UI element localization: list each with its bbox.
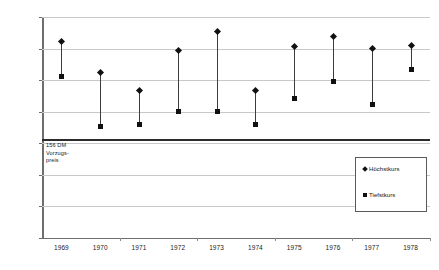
data-point-tiefstkurs	[292, 96, 297, 101]
range-stem	[100, 73, 101, 127]
range-stem	[372, 49, 373, 105]
gridline	[42, 17, 430, 18]
data-point-tiefstkurs	[59, 74, 64, 79]
legend-item-tiefstkurs: Tiefstkurs	[363, 192, 395, 198]
y-axis-tick-mark	[39, 206, 42, 207]
x-axis-tick-mark	[197, 238, 198, 241]
range-stem	[61, 42, 62, 77]
y-axis-tick-mark	[39, 143, 42, 144]
range-stem	[139, 91, 140, 125]
chart-canvas: 050100150200250300350 196919701971197219…	[0, 0, 439, 270]
y-axis-tick-mark	[39, 17, 42, 18]
square-marker-icon	[363, 193, 367, 197]
legend: Höchstkurs Tiefstkurs	[355, 157, 427, 212]
x-axis-tick-label: 1976	[314, 244, 353, 251]
y-axis-tick-mark	[39, 238, 42, 239]
data-point-tiefstkurs	[331, 79, 336, 84]
legend-label-hoechstkurs: Höchstkurs	[369, 166, 400, 172]
x-axis-tick-label: 1978	[391, 244, 430, 251]
data-point-tiefstkurs	[98, 124, 103, 129]
x-axis-tick-label: 1969	[42, 244, 81, 251]
x-axis-tick-mark	[275, 238, 276, 241]
y-axis-tick-mark	[39, 49, 42, 50]
data-point-tiefstkurs	[370, 102, 375, 107]
range-stem	[294, 47, 295, 99]
legend-item-hoechstkurs: Höchstkurs	[363, 166, 400, 172]
data-point-tiefstkurs	[137, 122, 142, 127]
range-stem	[217, 32, 218, 112]
y-axis-tick-mark	[39, 80, 42, 81]
legend-label-tiefstkurs: Tiefstkurs	[369, 192, 395, 198]
x-axis-tick-label: 1974	[236, 244, 275, 251]
x-axis-tick-label: 1975	[275, 244, 314, 251]
data-point-tiefstkurs	[176, 109, 181, 114]
y-axis-line	[42, 17, 44, 238]
reference-note-label: 156 DM Vorzugs- preis	[46, 142, 69, 164]
y-axis-tick-mark	[39, 112, 42, 113]
x-axis-tick-label: 1971	[120, 244, 159, 251]
reference-line	[42, 139, 430, 141]
data-point-tiefstkurs	[215, 109, 220, 114]
x-axis-tick-mark	[352, 238, 353, 241]
range-stem	[255, 91, 256, 124]
x-axis-tick-label: 1977	[352, 244, 391, 251]
x-axis-tick-label: 1970	[81, 244, 120, 251]
y-axis-tick-mark	[39, 175, 42, 176]
range-stem	[333, 37, 334, 82]
gridline	[42, 143, 430, 144]
data-point-tiefstkurs	[253, 122, 258, 127]
range-stem	[178, 50, 179, 111]
x-axis-line	[42, 238, 430, 239]
x-axis-tick-label: 1973	[197, 244, 236, 251]
x-axis-tick-mark	[430, 238, 431, 241]
x-axis-tick-label: 1972	[158, 244, 197, 251]
x-axis-tick-mark	[120, 238, 121, 241]
data-point-tiefstkurs	[409, 67, 414, 72]
diamond-marker-icon	[362, 166, 368, 172]
